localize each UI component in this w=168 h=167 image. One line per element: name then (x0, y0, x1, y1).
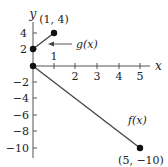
g-start-point (30, 46, 36, 52)
x-tick-label: 2 (72, 70, 79, 83)
y-axis-label: y (29, 7, 37, 21)
chart-canvas: 1 2 3 4 5 4 2 −2 −4 −6 −8 −10 y x (1, 4) (0, 0, 168, 167)
g-label: g(x) (76, 38, 98, 51)
piecewise-function-chart: 1 2 3 4 5 4 2 −2 −4 −6 −8 −10 y x (1, 4) (0, 0, 168, 167)
y-tick-label: −8 (13, 125, 29, 138)
g-end-point (51, 30, 57, 36)
arrowhead-icon (48, 42, 54, 47)
f-segment (33, 66, 140, 148)
g-end-point-label: (1, 4) (39, 13, 69, 26)
x-tick-label: 1 (51, 50, 58, 63)
x-tick-label: 3 (94, 70, 101, 83)
f-label: f(x) (127, 114, 147, 127)
f-end-point-label: (5, −10) (118, 154, 164, 167)
f-start-point (30, 63, 36, 69)
y-tick-label: −10 (6, 142, 29, 155)
f-end-point (137, 145, 143, 151)
y-tick-label: −2 (13, 76, 29, 89)
x-tick-label: 4 (116, 70, 123, 83)
y-tick-label: −4 (13, 92, 29, 105)
g-segment (33, 33, 54, 49)
x-tick-label: 5 (137, 70, 144, 83)
y-tick-label: −6 (13, 109, 29, 122)
x-axis-label: x (155, 59, 162, 73)
y-tick-label: 4 (20, 27, 27, 40)
y-tick-label: 2 (20, 43, 27, 56)
